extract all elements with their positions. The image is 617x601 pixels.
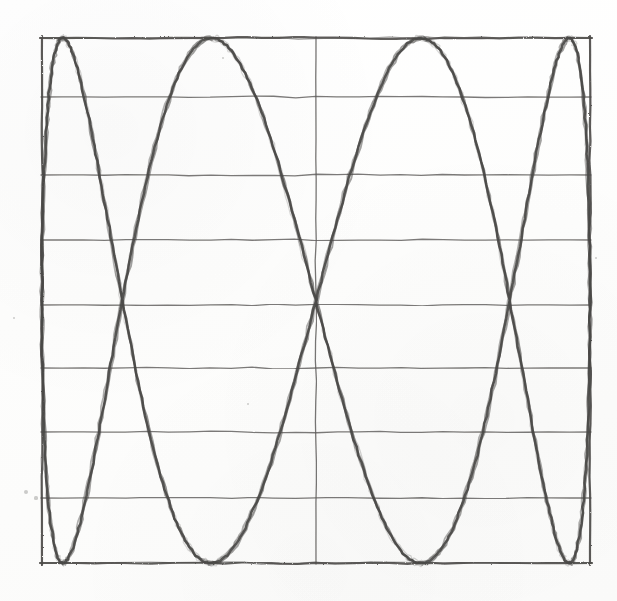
sketch-canvas: [0, 0, 617, 601]
lissajous-drawing: [0, 0, 617, 601]
